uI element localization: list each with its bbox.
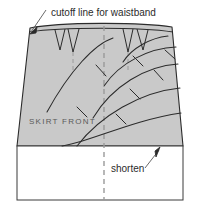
skirt-front-label: SKIRT FRONT: [29, 117, 96, 126]
shorten-label: shorten: [111, 163, 144, 174]
cutoff-line-label: cutoff line for waistband: [51, 7, 156, 18]
skirt-pattern-drawing: cutoff line for waistband SKIRT FRONT sh…: [0, 0, 200, 211]
pattern-diagram: cutoff line for waistband SKIRT FRONT sh…: [0, 0, 200, 211]
skirt-front-shape: [17, 23, 183, 146]
shorten-box: [17, 146, 183, 200]
skirt-body-group: [17, 23, 183, 146]
shorten-box-group: [17, 146, 183, 200]
